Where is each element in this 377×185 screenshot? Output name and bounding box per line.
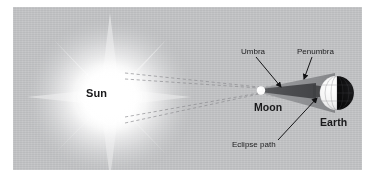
diagram-panel: Sun Moon Earth Umbra Penumbra Eclipse pa…	[13, 7, 362, 170]
penumbra-label: Penumbra	[297, 48, 334, 56]
eclipse-path-leader-line	[278, 98, 317, 140]
eclipse-path-label: Eclipse path	[232, 141, 276, 149]
eclipse-diagram-figure: Sun Moon Earth Umbra Penumbra Eclipse pa…	[0, 0, 377, 185]
eclipse-scene	[13, 7, 362, 170]
earth-label: Earth	[320, 117, 347, 128]
moon-label: Moon	[254, 102, 282, 113]
umbra-leader-line	[256, 57, 281, 87]
penumbra-leader-line	[304, 57, 312, 79]
moon-highlight	[257, 87, 261, 91]
sun-body	[24, 13, 196, 170]
umbra-label: Umbra	[241, 48, 265, 56]
sun-label: Sun	[86, 88, 107, 99]
moon-body	[257, 86, 265, 94]
